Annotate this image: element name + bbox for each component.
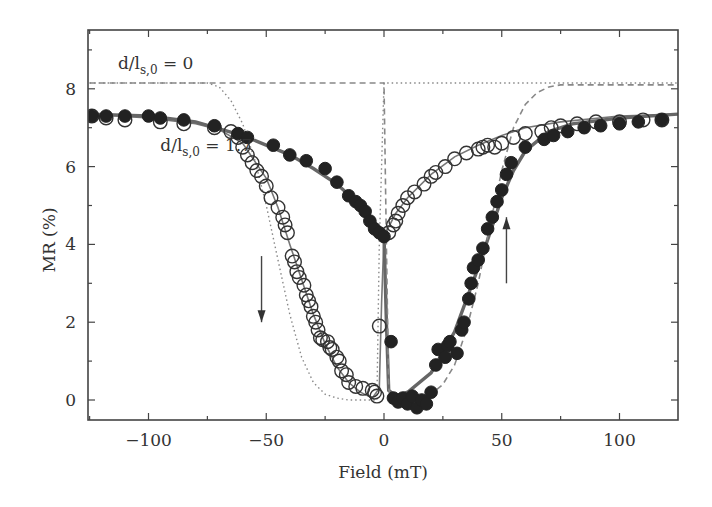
curve-annotation: d/ls,0 = 1.7 xyxy=(160,135,252,159)
x-axis-label: Field (mT) xyxy=(338,462,428,482)
x-tick-label: 0 xyxy=(379,430,390,450)
data-point-filled xyxy=(578,121,591,134)
data-point-filled xyxy=(331,176,344,189)
data-point-filled xyxy=(425,386,438,399)
data-point-filled xyxy=(439,351,452,364)
x-tick-label: 50 xyxy=(491,430,513,450)
data-point-filled xyxy=(462,293,475,306)
data-point-filled xyxy=(100,110,113,123)
data-point-filled xyxy=(491,195,504,208)
mr-vs-field-chart: −100−5005010002468 d/ls,0 = 0d/ls,0 = 1.… xyxy=(0,0,712,507)
data-point-filled xyxy=(142,110,155,123)
fit-line xyxy=(90,114,679,396)
data-point-filled xyxy=(519,141,532,154)
data-point-open xyxy=(396,199,410,213)
y-tick-label: 2 xyxy=(65,312,76,332)
data-point-filled xyxy=(632,116,645,129)
data-point-open xyxy=(417,177,431,191)
data-point-open xyxy=(519,127,533,141)
x-tick-label: 100 xyxy=(603,430,635,450)
data-point-filled xyxy=(119,110,132,123)
data-point-filled xyxy=(465,277,478,290)
arrowhead-icon xyxy=(258,310,266,322)
data-point-open xyxy=(372,319,386,333)
data-point-filled xyxy=(656,114,669,127)
data-point-filled xyxy=(477,242,490,255)
y-tick-label: 8 xyxy=(65,79,76,99)
data-point-open xyxy=(391,206,405,220)
series-group xyxy=(85,83,678,414)
data-point-filled xyxy=(451,347,464,360)
data-point-filled xyxy=(505,156,518,169)
y-axis-label: MR (%) xyxy=(39,207,59,272)
curve-annotation: d/ls,0 = 0 xyxy=(118,53,194,77)
data-point-filled xyxy=(208,119,221,132)
annotations: d/ls,0 = 0d/ls,0 = 1.7 xyxy=(118,53,511,322)
data-point-filled xyxy=(284,149,297,162)
y-tick-label: 6 xyxy=(65,157,76,177)
data-point-filled xyxy=(444,335,457,348)
axes: −100−5005010002468 xyxy=(65,30,678,450)
series-layer xyxy=(85,83,678,414)
data-point-filled xyxy=(154,112,167,125)
data-point-filled xyxy=(481,223,494,236)
data-point-filled xyxy=(378,230,391,243)
data-point-filled xyxy=(495,184,508,197)
data-point-filled xyxy=(458,316,471,329)
data-point-filled xyxy=(300,154,313,167)
data-point-filled xyxy=(385,335,398,348)
y-tick-label: 0 xyxy=(65,390,76,410)
data-point-filled xyxy=(500,168,513,181)
axes-frame xyxy=(88,30,678,420)
data-point-filled xyxy=(547,129,560,142)
data-point-filled xyxy=(613,118,626,131)
data-point-filled xyxy=(267,139,280,152)
x-tick-label: −50 xyxy=(248,430,284,450)
arrowhead-icon xyxy=(502,217,510,229)
data-point-filled xyxy=(178,114,191,127)
data-point-open xyxy=(264,191,278,205)
y-tick-label: 4 xyxy=(65,234,76,254)
data-point-filled xyxy=(420,398,433,411)
data-point-filled xyxy=(319,162,332,175)
x-tick-label: −100 xyxy=(125,430,172,450)
data-point-filled xyxy=(561,125,574,138)
data-point-filled xyxy=(486,211,499,224)
data-point-filled xyxy=(594,119,607,132)
data-point-filled xyxy=(472,254,485,267)
